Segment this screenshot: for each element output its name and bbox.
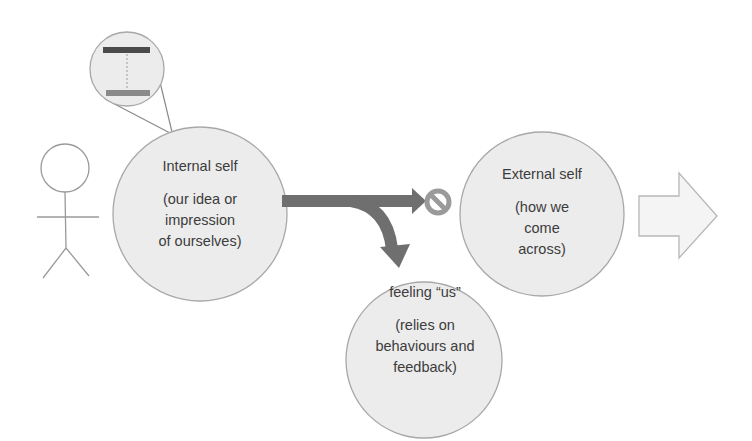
feeling-us-label: feeling “us” (relies on behaviours and f… [360,282,490,378]
feeling-us-title: feeling “us” [360,282,490,303]
external-self-desc-line: (how we [478,197,606,218]
feeling-us-desc-line: feedback) [360,357,490,378]
no-symbol-icon [427,191,449,213]
internal-self-label: Internal self (our idea or impression of… [128,156,272,252]
block-arrow-right-icon [639,173,717,258]
external-self-desc-line: across) [478,239,606,260]
external-self-desc-line: come [478,218,606,239]
magnifier-icon [90,32,164,106]
feeling-us-desc-line: behaviours and [360,336,490,357]
external-self-label: External self (how we come across) [478,164,606,260]
feeling-us-desc-line: (relies on [360,315,490,336]
stick-figure-icon [37,144,99,278]
internal-self-desc-line: of ourselves) [128,231,272,252]
internal-self-desc-line: (our idea or [128,189,272,210]
external-self-title: External self [478,164,606,185]
internal-self-title: Internal self [128,156,272,177]
internal-self-desc-line: impression [128,210,272,231]
